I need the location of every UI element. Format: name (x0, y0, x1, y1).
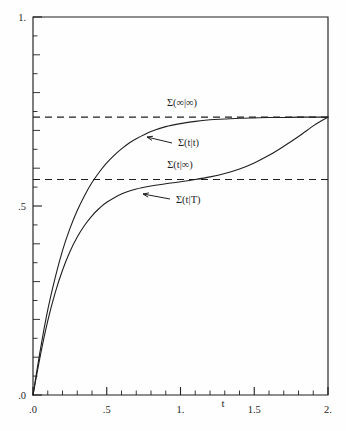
x-tick-label: .5 (103, 404, 111, 415)
x-tick-label: 1.5 (248, 404, 261, 415)
y-tick-label: .0 (18, 390, 26, 401)
x-tick-label: 2. (324, 404, 332, 415)
annotation-labels: Σ(∞|∞)Σ(t|t)Σ(t|∞)Σ(t|T) (167, 97, 201, 206)
figure-container: .0.51.1.52. .0.51. Σ(∞|∞)Σ(t|t)Σ(t|∞)Σ(t… (0, 0, 346, 431)
frame-rect (33, 17, 328, 395)
annotation-sigma-t-t: Σ(t|t) (178, 137, 200, 149)
x-axis-tick-labels: .0.51.1.52. (29, 404, 332, 415)
axes-frame (33, 17, 328, 395)
y-tick-label: 1. (18, 12, 26, 23)
reference-lines (33, 117, 328, 179)
annotation-sigma-t-T: Σ(t|T) (176, 194, 201, 206)
annotation-sigma-inf-inf: Σ(∞|∞) (167, 97, 198, 109)
x-tick-label: 1. (177, 404, 185, 415)
y-tick-label: .5 (18, 201, 26, 212)
y-axis-tick-labels: .0.51. (18, 12, 26, 401)
y-axis-ticks (33, 17, 42, 395)
x-axis-title: t (221, 397, 224, 409)
annotation-sigma-t-inf: Σ(t|∞) (167, 159, 193, 171)
plot-canvas: .0.51.1.52. .0.51. Σ(∞|∞)Σ(t|t)Σ(t|∞)Σ(t… (0, 0, 346, 431)
x-axis-ticks (33, 387, 328, 395)
x-tick-label: .0 (29, 404, 37, 415)
